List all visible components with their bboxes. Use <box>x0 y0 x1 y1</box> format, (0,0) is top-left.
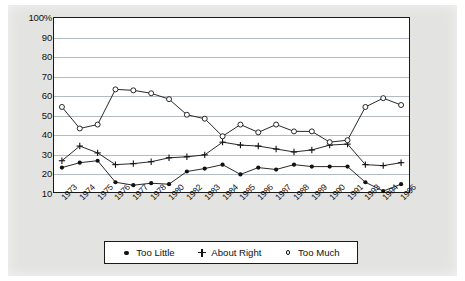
series-layer <box>53 17 410 193</box>
plus-marker-icon <box>197 248 206 257</box>
open-circle-marker-icon <box>202 116 207 121</box>
y-axis-labels: 100%908070605040302010 <box>14 10 52 200</box>
open-circle-marker-icon <box>381 96 386 101</box>
filled-circle-marker-icon <box>328 165 332 169</box>
filled-circle-marker-icon <box>399 182 403 186</box>
open-circle-marker-icon <box>363 104 368 109</box>
open-circle-marker-icon <box>345 138 350 143</box>
legend-item-too-little: Too Little <box>122 247 174 258</box>
filled-circle-marker-icon <box>203 166 207 170</box>
open-circle-marker-icon <box>149 91 154 96</box>
y-axis-tick-label: 60 <box>42 91 52 100</box>
filled-circle-marker-icon <box>96 159 100 163</box>
y-axis-tick-label: 20 <box>42 169 52 178</box>
filled-circle-marker-icon <box>122 248 131 257</box>
filled-circle-marker-icon <box>185 169 189 173</box>
open-circle-marker-icon <box>220 134 225 139</box>
filled-circle-marker-icon <box>113 180 117 184</box>
legend-item-too-much: Too Much <box>284 247 340 258</box>
open-circle-marker-icon <box>284 248 293 257</box>
filled-circle-marker-icon <box>238 172 242 176</box>
filled-circle-marker-icon <box>274 167 278 171</box>
open-circle-marker-icon <box>167 97 172 102</box>
y-axis-tick-label: 80 <box>42 52 52 61</box>
open-circle-marker-icon <box>59 104 64 109</box>
x-axis-labels: 1973197419751976197719781980198219831984… <box>53 195 410 239</box>
y-axis-tick-label: 10 <box>42 189 52 198</box>
series-too-much <box>59 87 403 145</box>
series-about-right <box>59 139 405 169</box>
filled-circle-marker-icon <box>292 163 296 167</box>
filled-circle-marker-icon <box>149 181 153 185</box>
open-circle-marker-icon <box>327 140 332 145</box>
open-circle-marker-icon <box>184 112 189 117</box>
chart-page: 100%908070605040302010 19731974197519761… <box>0 0 465 281</box>
y-axis-tick-label: 30 <box>42 150 52 159</box>
open-circle-marker-icon <box>309 129 314 134</box>
y-axis-tick-label: 40 <box>42 130 52 139</box>
filled-circle-marker-icon <box>363 180 367 184</box>
open-circle-marker-icon <box>399 103 404 108</box>
y-axis-tick-label: 50 <box>42 111 52 120</box>
open-circle-marker-icon <box>256 130 261 135</box>
series-line <box>62 89 401 142</box>
open-circle-marker-icon <box>95 122 100 127</box>
series-line <box>62 142 401 165</box>
legend-item-about-right: About Right <box>197 247 261 258</box>
open-circle-marker-icon <box>238 122 243 127</box>
filled-circle-marker-icon <box>256 165 260 169</box>
filled-circle-marker-icon <box>131 183 135 187</box>
filled-circle-marker-icon <box>220 163 224 167</box>
filled-circle-marker-icon <box>167 182 171 186</box>
open-circle-marker-icon <box>77 126 82 131</box>
chart-legend: Too Little About Right Too Much <box>104 241 358 264</box>
legend-label-too-little: Too Little <box>136 247 174 258</box>
open-circle-marker-icon <box>274 122 279 127</box>
filled-circle-marker-icon <box>60 165 64 169</box>
legend-label-about-right: About Right <box>211 247 261 258</box>
legend-label-too-much: Too Much <box>298 247 340 258</box>
y-axis-tick-label: 70 <box>42 72 52 81</box>
filled-circle-marker-icon <box>345 165 349 169</box>
open-circle-marker-icon <box>131 88 136 93</box>
y-axis-tick-label: 100% <box>29 13 53 22</box>
open-circle-marker-icon <box>113 87 118 92</box>
filled-circle-marker-icon <box>310 165 314 169</box>
filled-circle-marker-icon <box>78 161 82 165</box>
y-axis-tick-label: 90 <box>42 33 52 42</box>
open-circle-marker-icon <box>291 129 296 134</box>
